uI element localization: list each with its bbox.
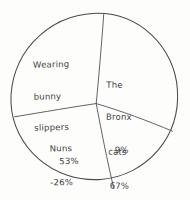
slice-name-bronx-line2: Bronx: [106, 111, 160, 122]
slice-name-slippers-line2: bunny: [34, 90, 96, 102]
slice-value-cats: 67%: [108, 180, 156, 191]
pie-chart-sheet: Wearing bunny slippers 53% The Bronx 9% …: [0, 0, 190, 200]
slice-name-cats: cats: [108, 147, 156, 158]
slice-value-nuns: -26%: [50, 176, 106, 187]
slice-name-bronx-line1: The: [106, 80, 160, 91]
slice-label-cats: cats 67%: [107, 126, 156, 200]
slice-divider-top: [96, 14, 104, 104]
slice-name-slippers-line1: Wearing: [33, 58, 95, 70]
slice-name-nuns: Nuns: [50, 143, 106, 154]
slice-label-nuns: Nuns -26%: [49, 122, 106, 200]
